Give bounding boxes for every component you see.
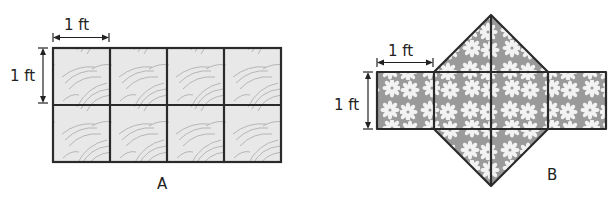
- figure-a-height-dimension: [38, 48, 48, 103]
- figure-a-caption: A: [157, 175, 168, 193]
- figure-a-width-label: 1 ft: [64, 16, 89, 34]
- figure-b-height-dimension: [363, 72, 373, 129]
- figure-a: 1 ft 1 ft A: [10, 16, 281, 193]
- figure-b: 1 ft 1 ft B: [334, 15, 606, 186]
- figure-b-height-label: 1 ft: [334, 96, 359, 114]
- figure-b-width-label: 1 ft: [388, 42, 413, 60]
- diagram-canvas: 1 ft 1 ft A 1 ft: [0, 0, 614, 208]
- figure-b-caption: B: [547, 166, 557, 184]
- figure-a-height-label: 1 ft: [10, 67, 35, 85]
- figure-a-width-dimension: [53, 33, 109, 42]
